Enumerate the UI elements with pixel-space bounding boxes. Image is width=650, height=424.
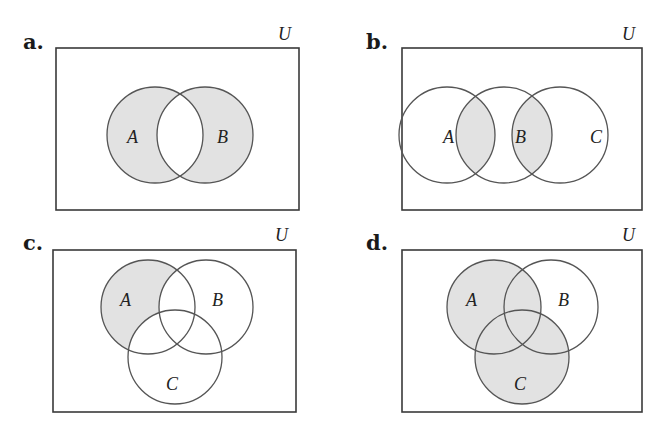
universe-label-d: U (622, 225, 636, 245)
panel-label-d: d. (366, 230, 388, 255)
set-c-label-d: C (514, 374, 527, 394)
panel-d: d. U A B C (366, 225, 642, 412)
set-b-label-c: B (212, 290, 223, 310)
panel-c: c. U A B C (23, 225, 296, 412)
universe-label-b: U (622, 24, 636, 44)
set-b-label-d: B (558, 290, 569, 310)
panel-label-a: a. (23, 29, 44, 54)
panel-label-b: b. (366, 29, 388, 54)
set-a-label-a: A (126, 127, 139, 147)
set-c-label-c: C (166, 374, 179, 394)
set-b-label-b: B (515, 127, 526, 147)
set-b-label-a: B (217, 127, 228, 147)
panel-a: a. U A B (23, 24, 299, 210)
set-c-label-b: C (590, 127, 603, 147)
set-a-label-b: A (442, 127, 455, 147)
set-a-label-c: A (119, 290, 132, 310)
panel-label-c: c. (23, 230, 43, 255)
panel-b: b. U A B C (366, 24, 642, 210)
venn-diagram-figure: a. U A B b. U A B C c. U A B C d. (0, 0, 650, 424)
universe-label-c: U (275, 225, 289, 245)
set-a-label-d: A (465, 290, 478, 310)
universe-label-a: U (278, 24, 292, 44)
